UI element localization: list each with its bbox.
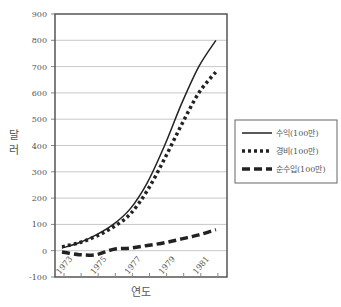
series-line-1 [62,72,216,247]
y-axis-title: 달 [9,129,19,142]
x-tick-label: 1981 [191,255,211,276]
y-tick-label: 500 [32,115,47,124]
x-tick-label: 1973 [54,255,74,276]
y-tick-label: 600 [32,89,47,98]
y-tick-label: 400 [32,142,47,151]
y-tick-label: 0 [42,247,47,256]
y-tick-label: 200 [32,194,47,203]
legend-label: 수익(100만) [276,128,319,138]
line-chart: 9008007006005004003002001000-10019731975… [0,0,341,307]
y-tick-label: 900 [32,10,47,19]
y-tick-label: 700 [32,63,47,72]
legend: 수익(100만)경비(100만)순수입(100만) [235,120,337,183]
y-tick-label: -100 [29,273,47,282]
y-tick-label: 300 [32,168,47,177]
x-axis-title: 연도 [131,286,151,299]
x-tick-label: 1977 [123,255,143,276]
legend-label: 경비(100만) [276,146,319,156]
x-axis: 19731975197719791981 [54,255,218,277]
x-tick-label: 1975 [89,255,109,276]
y-axis: 9008007006005004003002001000-100 [29,10,227,282]
y-axis-title: 러 [9,144,19,157]
x-tick-label: 1979 [157,255,177,276]
y-tick-label: 100 [32,220,47,229]
series-line-2 [62,230,216,255]
legend-label: 순수입(100만) [276,165,326,174]
series-line-0 [62,40,216,248]
y-tick-label: 800 [32,36,47,45]
